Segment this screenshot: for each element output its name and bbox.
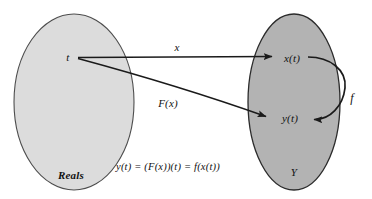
node-label-t: t bbox=[66, 52, 69, 63]
node-label-yt: y(t) bbox=[282, 113, 298, 124]
arrow-label-fx: F(x) bbox=[158, 98, 178, 109]
equation-caption: y(t) = (F(x))(t) = f(x(t)) bbox=[116, 162, 220, 173]
arrow-label-f: f bbox=[350, 92, 354, 104]
arrow-label-x: x bbox=[174, 42, 179, 53]
set-label-y: Y bbox=[291, 167, 297, 178]
set-ellipse-y bbox=[248, 14, 340, 190]
node-label-xt: x(t) bbox=[284, 53, 300, 64]
set-label-reals: Reals bbox=[58, 170, 84, 181]
diagram-canvas: t x F(x) x(t) y(t) f Reals Y y(t) = (F(x… bbox=[0, 0, 372, 199]
